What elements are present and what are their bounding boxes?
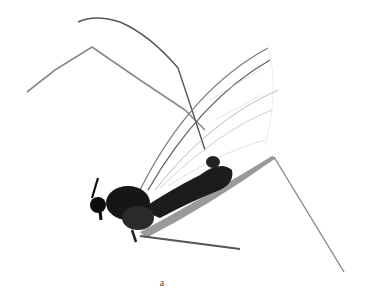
midleg: [78, 18, 205, 150]
hindleg: [140, 156, 344, 272]
figure-caption: a: [150, 277, 174, 288]
foreleg: [27, 47, 205, 130]
insect-specimen-image: [0, 0, 370, 304]
thorax: [106, 186, 154, 230]
head: [90, 178, 106, 220]
figure-panel: a: [0, 0, 370, 304]
